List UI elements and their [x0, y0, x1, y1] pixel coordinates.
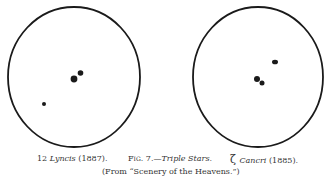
star-number: 12	[37, 154, 50, 163]
right-field-circle	[193, 7, 323, 147]
figure-title: Triple Stars.	[161, 154, 212, 163]
left-field-circle	[8, 7, 140, 147]
star-year: (1887).	[76, 154, 108, 163]
star-dot	[254, 76, 260, 82]
right-caption: ζ Cancri (1885).	[230, 153, 298, 166]
star-dot	[260, 81, 265, 86]
star-year: (1885).	[266, 156, 298, 165]
star-dot	[272, 60, 278, 65]
figure-caption: Fig. 7.—Triple Stars.	[128, 154, 212, 163]
star-name: Cancri	[239, 156, 266, 165]
star-dot	[71, 76, 78, 83]
left-caption: 12 Lyncis (1887).	[37, 154, 107, 163]
figure-number: Fig. 7.	[128, 154, 153, 163]
star-dot	[78, 70, 84, 76]
star-name: Lyncis	[50, 154, 76, 163]
star-dot	[42, 102, 46, 106]
figure-illustration	[0, 0, 327, 150]
source-caption: (From “Scenery of the Heavens.”)	[102, 167, 240, 176]
